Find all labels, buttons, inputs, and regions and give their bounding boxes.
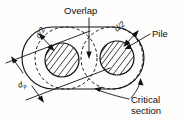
pile-diameter-dimension: dp [6, 31, 110, 103]
pile-cap-critical-section-diagram: Overlap Pile Critical section [0, 0, 184, 121]
pile-diameter-label: dp [17, 79, 28, 91]
overlap-callout: Overlap [64, 5, 97, 59]
pile-leader-line [128, 34, 150, 47]
d-over-2-right-label: d/2 [113, 19, 128, 33]
dimension-arrow-icon [11, 56, 18, 63]
critical-leader-to-solid-edge [98, 90, 129, 99]
arrowhead-icon [138, 78, 144, 85]
critical-section-callout: Critical section [94, 78, 161, 116]
critical-section-label-line1: Critical [131, 94, 160, 105]
pile-label: Pile [152, 28, 168, 39]
dimension-arrow-icon [37, 95, 44, 102]
hatch-fill-icon [96, 36, 137, 89]
critical-section-label-line2: section [131, 105, 161, 116]
figure-canvas: Overlap Pile Critical section [0, 0, 184, 121]
overlap-label: Overlap [64, 5, 97, 16]
pile-right [96, 36, 137, 89]
arrowhead-icon [86, 52, 91, 60]
